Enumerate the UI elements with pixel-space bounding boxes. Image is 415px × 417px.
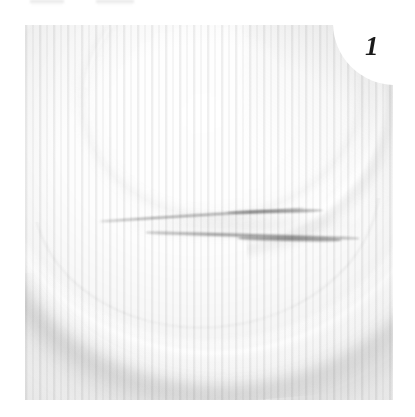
figure-photograph <box>25 25 393 400</box>
scan-artifact-top-left <box>30 0 64 5</box>
photo-vignette <box>25 25 393 400</box>
figure-page: 1 <box>0 0 415 417</box>
scan-artifact-top-center <box>96 0 134 5</box>
figure-number: 1 <box>365 33 379 60</box>
